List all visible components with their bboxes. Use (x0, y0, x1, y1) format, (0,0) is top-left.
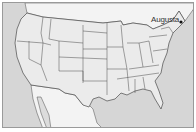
map-frame: Augusta (2, 2, 194, 128)
augusta-label: Augusta (151, 15, 179, 24)
augusta-marker (179, 20, 182, 23)
